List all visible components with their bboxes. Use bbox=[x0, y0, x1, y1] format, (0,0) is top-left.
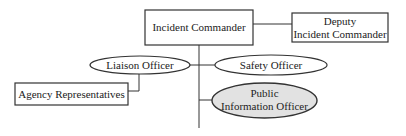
safety-label: Safety Officer bbox=[240, 59, 303, 71]
node-safety-officer[interactable]: Safety Officer bbox=[215, 55, 327, 75]
node-liaison-officer[interactable]: Liaison Officer bbox=[90, 56, 190, 74]
ics-command-staff-diagram: Incident Commander Deputy Incident Comma… bbox=[0, 0, 406, 136]
liaison-label: Liaison Officer bbox=[106, 59, 174, 71]
node-public-information-officer[interactable]: Public Information Officer bbox=[212, 83, 317, 118]
node-agency-representatives[interactable]: Agency Representatives bbox=[15, 83, 128, 105]
node-incident-commander[interactable]: Incident Commander bbox=[145, 10, 253, 45]
pio-label-line1: Public bbox=[250, 87, 278, 99]
deputy-label-line2: Incident Commander bbox=[293, 28, 387, 40]
connector-liaison-agency bbox=[128, 74, 139, 91]
agency-label: Agency Representatives bbox=[18, 88, 125, 100]
pio-label-line2: Information Officer bbox=[221, 100, 308, 112]
deputy-label-line1: Deputy bbox=[324, 15, 357, 27]
incident-commander-label: Incident Commander bbox=[152, 21, 246, 33]
node-deputy-incident-commander[interactable]: Deputy Incident Commander bbox=[292, 13, 388, 42]
